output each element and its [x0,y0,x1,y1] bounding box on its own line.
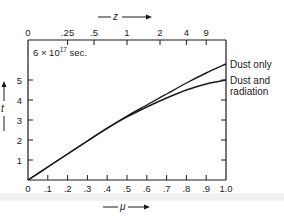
x-tick-label: .8 [182,183,190,194]
x-tick-label: .9 [202,183,210,194]
top-axis-title: z [98,11,152,22]
y-tick-label: 2 [17,135,22,146]
z-tick-label: 0 [25,27,30,38]
y-tick-label: 3 [17,115,22,126]
plot-frame [28,40,226,180]
z-tick-label: 2 [157,27,162,38]
y-tick-label: 1 [17,155,22,166]
x-tick-label: 1.0 [219,183,232,194]
bottom-axis-label: μ [119,201,126,212]
y-tick-label: 5 [17,75,22,86]
left-axis-ticks: 12345 [17,75,33,166]
arrow-up-icon [2,81,7,87]
arrow-right-icon [146,15,152,20]
z-tick-label: 1 [124,27,129,38]
legend-dust-only: Dust only [230,59,272,70]
x-tick-label: .4 [103,183,111,194]
chart: z 0.25.51249 0.1.2.3.4.5.6.7.8.91.0 1234… [0,0,284,220]
right-axis-ticks [221,80,226,160]
y-tick-label: 4 [17,95,22,106]
z-tick-label: .25 [61,27,74,38]
arrow-right-icon [144,205,150,210]
top-axis-label: z [112,11,118,22]
left-axis-label: t [1,103,5,114]
y-unit-label: 6 × 1017 sec. [33,46,87,58]
x-tick-label: .1 [44,183,52,194]
left-axis-title: t [1,81,7,131]
x-tick-label: 0 [25,183,30,194]
bottom-axis-title: μ [103,201,150,212]
legend-dust-and-radiation-line2: radiation [230,86,268,97]
x-tick-label: .3 [83,183,91,194]
legend-dust-and-radiation-line1: Dust and [230,75,270,86]
x-tick-label: .2 [64,183,72,194]
x-tick-label: .7 [163,183,171,194]
x-tick-label: .6 [143,183,151,194]
z-tick-label: 9 [204,27,209,38]
x-tick-label: .5 [123,183,131,194]
curve-dust-only [28,64,226,180]
z-tick-label: 4 [184,27,189,38]
top-axis-ticks: 0.25.51249 [25,27,208,45]
z-tick-label: .5 [90,27,98,38]
bottom-axis-ticks: 0.1.2.3.4.5.6.7.8.91.0 [25,175,232,194]
curve-dust-and-radiation [28,80,226,180]
